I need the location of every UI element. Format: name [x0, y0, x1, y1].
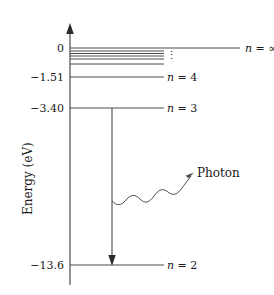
photon-label: Photon: [197, 167, 240, 179]
y-tick-label-0: 0: [22, 43, 64, 54]
level-label-n-2: n = 3: [167, 103, 197, 114]
y-tick-label-1.51: −1.51: [22, 72, 64, 83]
converging-levels-ellipsis-icon: ⋮: [166, 50, 177, 61]
y-tick-label-13.6: −13.6: [22, 260, 64, 271]
y-tick-label-3.40: −3.40: [22, 103, 64, 114]
level-label-n-3: n = 4: [167, 72, 197, 83]
y-axis-title: Energy (eV): [22, 142, 34, 215]
energy-level-diagram: Energy (eV) 0 −1.51 −3.40 −13.6 n = ∞ n …: [0, 0, 274, 295]
y-axis-arrowhead: [66, 23, 74, 34]
y-axis: [66, 23, 74, 285]
level-label-n-1: n = 2: [167, 260, 197, 271]
transition-arrow: [108, 108, 115, 266]
level-label-n-infinity: n = ∞: [245, 43, 274, 54]
transition-arrow-head: [108, 255, 115, 266]
energy-level-lines: [70, 48, 240, 265]
photon-wave-arrow: [112, 173, 194, 205]
photon-wave-path: [112, 176, 191, 205]
